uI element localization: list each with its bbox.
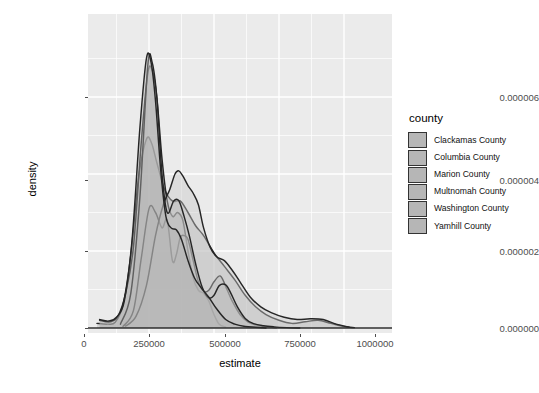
y-tick-label: 0.000000 — [459, 323, 539, 334]
x-tick-mark — [375, 334, 376, 337]
legend-key-swatch — [408, 150, 427, 166]
legend-item-label: Clackamas County — [434, 135, 506, 145]
legend-item[interactable]: Yamhill County — [408, 217, 509, 234]
x-tick-label: 750000 — [284, 338, 316, 349]
density-series-group — [97, 53, 354, 328]
legend-item-label: Columbia County — [434, 152, 500, 162]
x-tick-mark — [225, 334, 226, 337]
x-tick-mark — [84, 334, 85, 337]
x-tick-label: 250000 — [133, 338, 165, 349]
plot-panel — [88, 14, 392, 333]
legend-key-swatch — [408, 201, 427, 217]
legend-item[interactable]: Columbia County — [408, 148, 509, 165]
y-tick-label: 0.000006 — [459, 92, 539, 103]
x-axis-title: estimate — [88, 357, 392, 369]
x-tick-mark — [149, 334, 150, 337]
legend-items: Clackamas County Columbia County Marion … — [408, 131, 509, 234]
legend-key-swatch — [408, 132, 427, 148]
legend-key-swatch — [408, 167, 427, 183]
y-tick-mark — [85, 97, 88, 98]
legend-item-label: Multnomah County — [434, 186, 506, 196]
y-axis-title: density — [26, 139, 38, 219]
y-tick-mark — [85, 251, 88, 252]
x-tick-mark — [300, 334, 301, 337]
y-tick-label: 0.000002 — [459, 246, 539, 257]
x-tick-label: 500000 — [209, 338, 241, 349]
legend-item-label: Washington County — [434, 203, 509, 213]
y-tick-mark — [85, 180, 88, 181]
density-plot-figure: 0.000006 0.000004 0.000002 0.000000 dens… — [0, 0, 539, 393]
plot-canvas — [88, 14, 392, 333]
legend-item-label: Yamhill County — [434, 221, 491, 231]
legend-item[interactable]: Marion County — [408, 165, 509, 182]
legend-title: county — [409, 112, 509, 124]
legend-key-swatch — [408, 184, 427, 200]
legend-item[interactable]: Washington County — [408, 200, 509, 217]
legend-item-label: Marion County — [434, 169, 490, 179]
legend: county Clackamas County Columbia County … — [408, 112, 509, 234]
legend-item[interactable]: Multnomah County — [408, 183, 509, 200]
x-tick-label: 1000000 — [357, 338, 394, 349]
y-tick-mark — [85, 328, 88, 329]
legend-key-swatch — [408, 218, 427, 234]
legend-item[interactable]: Clackamas County — [408, 131, 509, 148]
x-tick-label: 0 — [81, 338, 86, 349]
